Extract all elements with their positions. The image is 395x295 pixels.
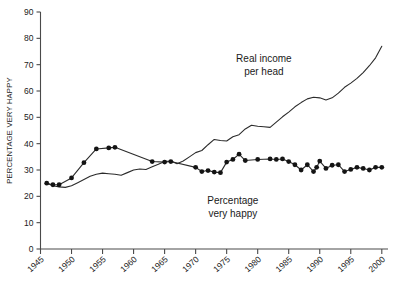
data-point-marker: [314, 165, 319, 170]
data-point-marker: [355, 165, 360, 170]
data-point-marker: [330, 163, 335, 168]
y-axis-title: PERCENTAGE VERY HAPPY: [5, 77, 14, 183]
data-point-marker: [206, 168, 211, 173]
data-point-marker: [44, 181, 49, 186]
data-point-marker: [162, 160, 167, 165]
data-point-marker: [280, 157, 285, 162]
data-point-marker: [212, 170, 217, 175]
data-point-marker: [218, 170, 223, 175]
data-point-marker: [268, 157, 273, 162]
x-axis-ticks: [41, 249, 382, 254]
y-tick-label: 70: [24, 60, 34, 70]
x-tick-label: 1975: [211, 254, 232, 274]
y-axis: 0102030405060708090: [24, 7, 40, 254]
data-point-marker: [305, 162, 310, 167]
data-point-marker: [230, 157, 235, 162]
data-point-marker: [317, 159, 322, 164]
data-point-marker: [113, 145, 118, 150]
line-chart: 0102030405060708090 19451950195519601965…: [0, 0, 395, 295]
x-tick-label: 1955: [87, 254, 108, 274]
data-point-marker: [243, 158, 248, 163]
y-tick-label: 20: [24, 191, 34, 201]
y-tick-label: 50: [24, 112, 34, 122]
data-point-marker: [336, 162, 341, 167]
data-point-marker: [379, 165, 384, 170]
data-point-marker: [348, 167, 353, 172]
y-tick-label: 90: [24, 7, 34, 17]
y-tick-label: 0: [29, 244, 34, 254]
real-income-annotation-line2: per head: [244, 66, 283, 77]
annotation-layer: Real incomeper headPercentagevery happy: [207, 53, 292, 219]
percentage-very-happy-annotation: Percentage: [207, 195, 259, 206]
x-tick-label: 1950: [56, 254, 77, 274]
y-tick-label: 60: [24, 86, 34, 96]
data-point-marker: [82, 160, 87, 165]
percentage-very-happy-annotation-line2: very happy: [208, 208, 257, 219]
data-point-marker: [106, 145, 111, 150]
data-point-marker: [69, 176, 74, 181]
x-axis: 1945195019551960196519701975198019851990…: [25, 249, 388, 274]
data-point-marker: [150, 159, 155, 164]
data-point-marker: [51, 182, 56, 187]
x-tick-label: 1995: [335, 254, 356, 274]
data-point-marker: [367, 168, 372, 173]
x-tick-label: 1965: [149, 254, 170, 274]
data-point-marker: [199, 169, 204, 174]
series-2: [44, 145, 384, 187]
data-point-marker: [299, 168, 304, 173]
data-point-marker: [324, 166, 329, 171]
data-point-marker: [311, 169, 316, 174]
data-point-marker: [237, 152, 242, 157]
y-tick-label: 10: [24, 218, 34, 228]
data-point-marker: [57, 182, 62, 187]
data-point-marker: [293, 162, 298, 167]
y-tick-label: 80: [24, 33, 34, 43]
x-tick-label: 1990: [304, 254, 325, 274]
y-tick-label: 40: [24, 139, 34, 149]
y-axis-ticks: [37, 12, 41, 249]
series-layer: [44, 46, 384, 187]
x-tick-label: 1985: [273, 254, 294, 274]
data-point-marker: [224, 160, 229, 165]
x-tick-label: 1970: [180, 254, 201, 274]
y-tick-label: 30: [24, 165, 34, 175]
data-point-marker: [168, 159, 173, 164]
data-point-marker: [361, 166, 366, 171]
x-tick-label: 1980: [242, 254, 263, 274]
data-point-marker: [274, 157, 279, 162]
x-tick-label: 2000: [366, 254, 387, 274]
x-axis-tick-labels: 1945195019551960196519701975198019851990…: [25, 254, 387, 274]
data-point-marker: [193, 165, 198, 170]
data-point-marker: [94, 147, 99, 152]
x-tick-label: 1945: [25, 254, 46, 274]
data-point-marker: [286, 159, 291, 164]
real-income-annotation: Real income: [236, 53, 292, 64]
chart-container: 0102030405060708090 19451950195519601965…: [0, 0, 395, 295]
y-axis-tick-labels: 0102030405060708090: [24, 7, 34, 254]
data-point-marker: [255, 157, 260, 162]
data-point-marker: [373, 165, 378, 170]
data-point-marker: [342, 169, 347, 174]
x-tick-label: 1960: [118, 254, 139, 274]
